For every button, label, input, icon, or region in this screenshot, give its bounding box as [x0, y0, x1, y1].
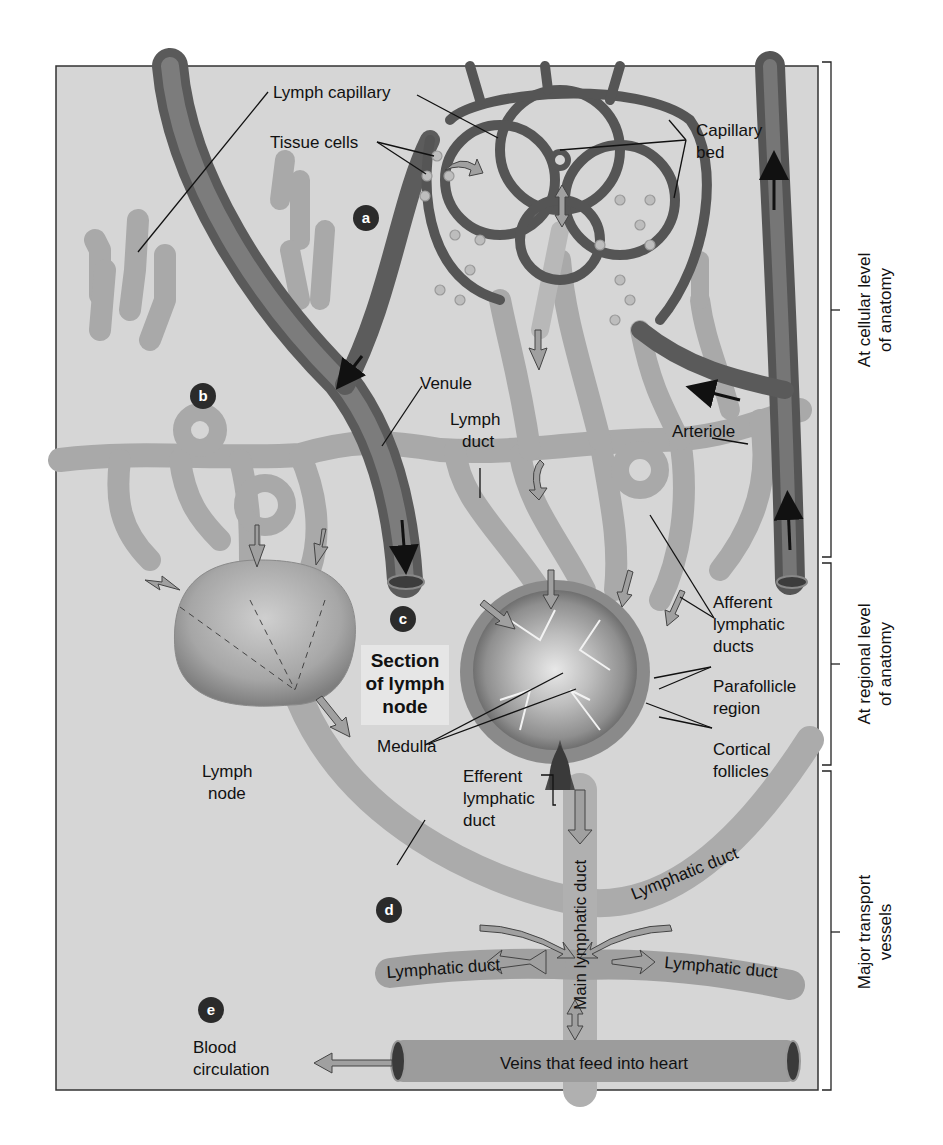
label-tissue-cells: Tissue cells: [270, 133, 358, 152]
label-lymph-node-1: Lymph: [202, 762, 252, 781]
label-venule: Venule: [420, 374, 472, 393]
label-lymph-duct-1: Lymph: [450, 410, 500, 429]
label-afferent-2: lymphatic: [713, 615, 785, 634]
svg-text:b: b: [198, 387, 207, 404]
level-labels: At cellular level of anatomy At regional…: [855, 253, 895, 989]
label-afferent-1: Afferent: [713, 593, 773, 612]
label-section-2: of lymph: [365, 673, 444, 694]
lymph-node-whole: [174, 560, 355, 706]
lymphatic-system-diagram: a b c d e Lymph capillary Tissue cells C…: [0, 0, 943, 1145]
svg-text:d: d: [384, 901, 393, 918]
label-lymph-capillary: Lymph capillary: [273, 83, 391, 102]
label-arteriole: Arteriole: [672, 422, 735, 441]
label-efferent-2: lymphatic: [463, 789, 535, 808]
svg-text:At cellular level: At cellular level: [855, 253, 874, 367]
marker-c: c: [390, 606, 416, 632]
label-afferent-3: ducts: [713, 637, 754, 656]
label-capillary-bed-2: bed: [696, 143, 724, 162]
label-section-3: node: [382, 696, 427, 717]
label-cortical-2: follicles: [713, 762, 769, 781]
label-section-1: Section: [371, 650, 440, 671]
svg-text:a: a: [362, 209, 371, 226]
label-efferent-1: Efferent: [463, 767, 523, 786]
svg-text:of anatomy: of anatomy: [876, 621, 895, 706]
svg-text:Major transport: Major transport: [855, 875, 874, 990]
marker-a: a: [353, 205, 379, 231]
level-brackets: [822, 62, 840, 1090]
svg-text:of anatomy: of anatomy: [876, 267, 895, 352]
svg-text:vessels: vessels: [876, 904, 895, 961]
label-cortical-1: Cortical: [713, 740, 771, 759]
label-veins-heart: Veins that feed into heart: [500, 1054, 688, 1073]
label-efferent-3: duct: [463, 811, 495, 830]
label-blood-circulation-1: Blood: [193, 1038, 236, 1057]
label-blood-circulation-2: circulation: [193, 1060, 270, 1079]
svg-text:At regional level: At regional level: [855, 604, 874, 725]
marker-b: b: [190, 383, 216, 409]
level-regional: At regional level of anatomy: [855, 604, 895, 725]
marker-e: e: [198, 997, 224, 1023]
label-medulla: Medulla: [377, 737, 437, 756]
label-lymph-node-2: node: [208, 784, 246, 803]
svg-text:e: e: [207, 1001, 215, 1018]
marker-d: d: [376, 897, 402, 923]
level-cellular: At cellular level of anatomy: [855, 253, 895, 367]
label-main-lymphatic-duct: Main lymphatic duct: [571, 859, 590, 1010]
label-capillary-bed-1: Capillary: [696, 121, 763, 140]
label-parafollicle-2: region: [713, 699, 760, 718]
level-transport: Major transport vessels: [855, 875, 895, 990]
label-lymph-duct-2: duct: [462, 432, 494, 451]
svg-text:c: c: [399, 610, 407, 627]
label-parafollicle-1: Parafollicle: [713, 677, 796, 696]
